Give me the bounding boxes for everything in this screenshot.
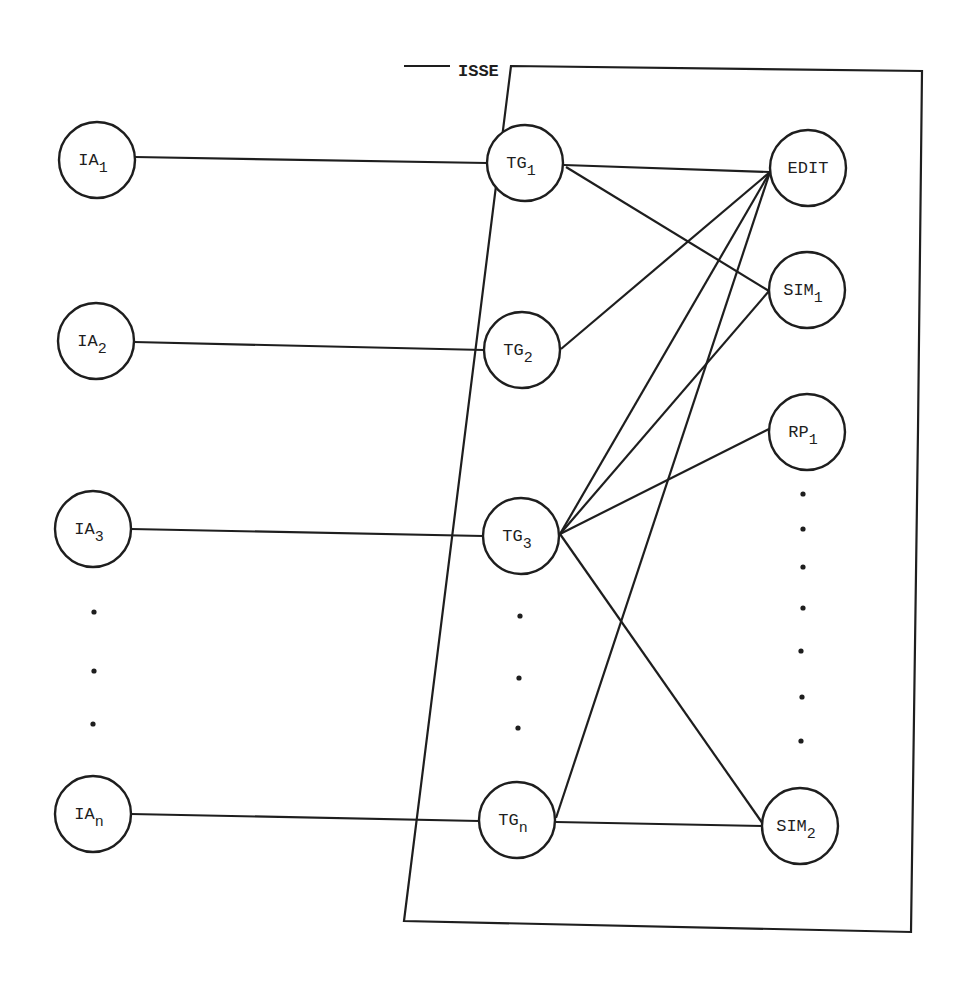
ellipsis-dot-right-column [798,648,803,653]
edge-ian-to-tgn [131,814,479,821]
node-ia3: IA3 [55,491,131,567]
edge-tg1-to-edit [564,165,770,172]
node-sim1: SIM1 [769,252,845,328]
isse-boundary-label: ISSE [458,62,499,81]
connection-edges [131,157,770,826]
ellipsis-dot-right-column [798,738,803,743]
process-nodes: IA1IA2IA3IAnTG1TG2TG3TGnEDITSIM1RP1SIM2 [55,122,846,864]
node-rp1: RP1 [769,394,845,470]
ellipsis-dot-ia-column [91,668,96,673]
node-ian: IAn [55,776,131,852]
node-ia2: IA2 [58,303,134,379]
edge-tg1-to-sim1 [566,167,769,291]
edge-ia2-to-tg2 [134,342,484,350]
node-tgn: TGn [479,782,555,858]
ellipsis-dot-right-column [799,694,804,699]
edge-tg3-to-sim1 [560,291,769,534]
node-tg1: TG1 [487,125,563,201]
node-tg3: TG3 [483,498,559,574]
edge-tg3-to-sim2 [560,534,763,824]
node-tg2: TG2 [484,312,560,388]
ellipsis-dot-tg-column [516,675,521,680]
isse-boundary-box [404,66,922,932]
node-sim2: SIM2 [762,788,838,864]
edge-tgn-to-edit [556,172,770,818]
node-ia1: IA1 [59,122,135,198]
isse-architecture-diagram: ISSE IA1IA2IA3IAnTG1TG2TG3TGnEDITSIM1RP1… [0,0,958,984]
node-label: EDIT [788,159,829,178]
ellipsis-dot-ia-column [90,721,95,726]
ellipsis-dot-right-column [800,564,805,569]
edge-ia1-to-tg1 [135,157,487,163]
edge-tgn-to-sim2 [556,822,762,826]
ellipsis-dot-tg-column [515,725,520,730]
ellipsis-dot-right-column [800,526,805,531]
ellipsis-dot-tg-column [517,613,522,618]
node-edit: EDIT [770,130,846,206]
ellipsis-dot-ia-column [91,609,96,614]
edge-ia3-to-tg3 [131,529,483,536]
ellipsis-dot-right-column [800,605,805,610]
edge-tg2-to-edit [561,172,770,349]
ellipsis-dot-right-column [800,491,805,496]
